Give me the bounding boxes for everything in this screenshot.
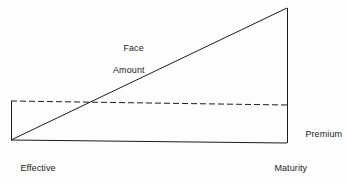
bond-premium-diagram: Face Amount Premium Effective Date Matur… — [0, 0, 346, 185]
baseline-line — [11, 140, 287, 143]
face-amount-label-line2: Amount — [113, 65, 145, 76]
premium-label: Premium — [295, 118, 342, 151]
face-amount-label: Face Amount — [113, 32, 145, 98]
maturity-date-label: Maturity Date — [264, 152, 307, 185]
effective-date-label: Effective Date — [10, 152, 56, 185]
face-amount-label-line1: Face — [123, 43, 143, 53]
premium-dashed-line — [11, 101, 287, 105]
maturity-date-label-line1: Maturity — [274, 163, 307, 173]
effective-date-label-line1: Effective — [20, 163, 55, 173]
face-amount-diagonal-line — [11, 8, 287, 140]
premium-label-line1: Premium — [305, 129, 342, 139]
